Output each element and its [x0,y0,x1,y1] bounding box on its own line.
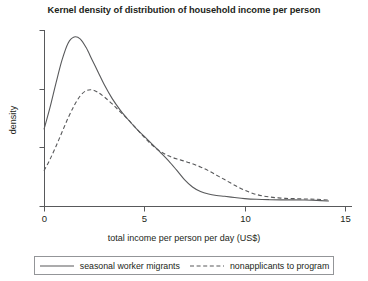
x-axis-label: total income per person per day (US$) [0,233,368,243]
chart-legend: seasonal worker migrants nonapplicants t… [34,256,334,275]
x-tick-label: 5 [133,213,157,224]
chart-figure: Kernel density of distribution of househ… [0,0,368,281]
series-group [44,37,329,201]
x-tick-label: 0 [33,213,57,224]
y-axis-label: density [8,90,18,150]
y-axis-ticks [40,31,45,207]
series-line-seasonal-worker-migrants [44,37,329,201]
x-tick-label: 10 [234,213,258,224]
legend-item-nonapplicants-to-program: nonapplicants to program [189,261,329,271]
x-axis-ticks [45,207,346,212]
x-tick-label: 15 [334,213,358,224]
legend-solid-line-icon [39,262,75,270]
legend-label: nonapplicants to program [230,261,329,271]
axes [40,30,353,212]
legend-dashed-line-icon [189,262,225,270]
legend-item-seasonal-worker-migrants: seasonal worker migrants [39,261,180,271]
chart-title: Kernel density of distribution of househ… [0,5,368,15]
series-line-nonapplicants-to-program [44,90,329,200]
legend-label: seasonal worker migrants [80,261,180,271]
